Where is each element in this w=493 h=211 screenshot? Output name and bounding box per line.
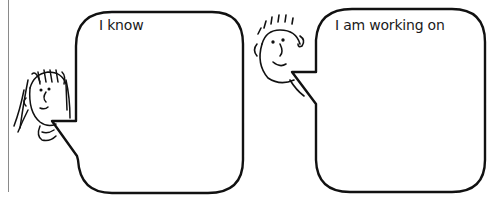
bubble-label-i-am-working-on: I am working on	[335, 17, 445, 33]
boy-face-icon	[255, 15, 305, 96]
bubble-label-i-know: I know	[99, 17, 143, 33]
worksheet: I know I am working on	[0, 0, 493, 211]
speech-bubble-right[interactable]	[292, 9, 485, 192]
speech-bubble-left[interactable]	[52, 12, 243, 193]
